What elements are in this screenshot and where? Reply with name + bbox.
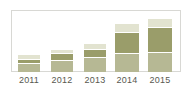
bar-segment-2012-segment-bottom [51,61,73,72]
bar-2015[interactable] [148,19,172,72]
bar-2013[interactable] [84,44,106,72]
x-axis-tick-labels: 20112012201320142015 [11,74,181,88]
bar-segment-2012-segment-middle [51,54,73,61]
bar-segment-2013-segment-middle [84,50,106,59]
x-tick-label-2013: 2013 [82,74,108,86]
x-tick-label-2014: 2014 [114,74,140,86]
bar-segment-2015-segment-bottom [148,53,172,72]
bar-segment-2011-segment-bottom [18,64,40,72]
bar-2014[interactable] [115,24,139,72]
x-tick-label-2012: 2012 [49,74,75,86]
bar-segment-2015-segment-top [148,19,172,28]
x-tick-label-2011: 2011 [16,74,42,86]
stacked-bar-chart: 20112012201320142015 [0,0,193,98]
bars-layer [11,10,181,72]
bar-2012[interactable] [51,50,73,72]
bar-2011[interactable] [18,55,40,72]
bar-segment-2014-segment-bottom [115,54,139,72]
bar-segment-2015-segment-middle [148,28,172,53]
bar-segment-2014-segment-middle [115,33,139,54]
bar-segment-2013-segment-bottom [84,58,106,72]
x-tick-label-2015: 2015 [147,74,173,86]
bar-segment-2014-segment-top [115,24,139,33]
